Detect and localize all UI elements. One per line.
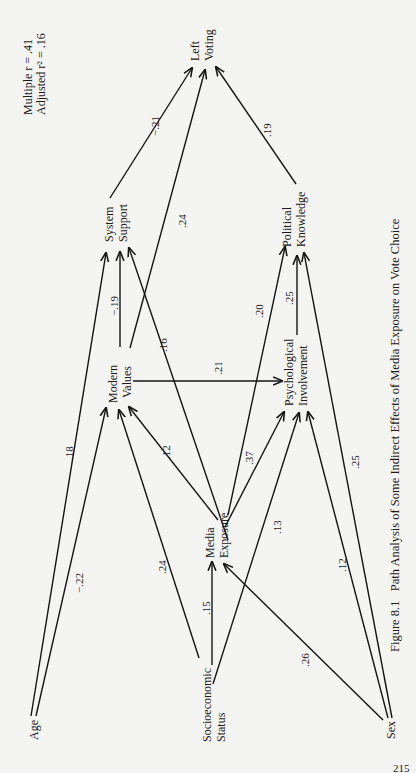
edges: [31, 67, 392, 720]
svg-text:Status: Status: [214, 712, 228, 742]
coef-sex-psych-involvement: .12: [336, 558, 348, 572]
svg-text:Support: Support: [116, 203, 130, 242]
coef-age-modern-values: −.22: [73, 573, 85, 593]
edge-ses-modern-values: [119, 410, 199, 658]
edge-political-knowledge-left-voting: [216, 67, 296, 184]
svg-text:Sex: Sex: [384, 721, 398, 739]
svg-text:Values: Values: [120, 366, 134, 398]
coef-ses-psych-involvement: .13: [271, 520, 283, 534]
svg-text:Media: Media: [203, 527, 217, 558]
node-political-knowledge: Political Knowledge: [280, 192, 308, 247]
node-media-exposure: Media Exposure: [203, 513, 231, 558]
coef-ses-modern-values: .24: [156, 560, 168, 574]
coef-sex-political-knowledge: .25: [349, 455, 361, 469]
node-psychological-involvement: Psychological Involvement: [282, 338, 310, 406]
coef-political-knowledge-left-voting: .19: [261, 123, 273, 137]
svg-text:Age: Age: [27, 720, 41, 740]
edge-age-system-support: [31, 253, 106, 716]
edge-sex-psych-involvement: [308, 412, 388, 718]
coef-age-system-support: .18: [63, 446, 75, 460]
coef-modern-values-psych-involvement: .21: [212, 361, 224, 375]
coef-ses-media-exposure: .15: [200, 601, 212, 615]
node-modern-values: Modern Values: [106, 365, 134, 403]
fit-statistics: Multiple r = .41 Adjusted r² = .16: [21, 33, 48, 115]
edge-media-exposure-modern-values: [129, 407, 218, 520]
svg-text:Psychological: Psychological: [282, 338, 296, 406]
path-diagram: Multiple r = .41 Adjusted r² = .16: [0, 0, 416, 773]
node-system-support: System Support: [102, 203, 130, 242]
coef-media-exposure-system-support: .16: [157, 338, 169, 352]
node-age: Age: [27, 720, 41, 740]
node-sex: Sex: [384, 721, 398, 739]
svg-text:Socioeconomic: Socioeconomic: [200, 668, 214, 742]
edge-modern-values-left-voting: [130, 70, 205, 348]
edge-sex-political-knowledge: [304, 253, 392, 718]
edge-sex-media-exposure: [224, 564, 383, 720]
page-number: 215: [393, 762, 410, 773]
svg-text:Left: Left: [188, 40, 202, 61]
coef-system-support-left-voting: −.21: [149, 116, 161, 136]
coef-media-exposure-political-knowledge: .20: [253, 304, 265, 318]
figure-caption: Figure 8.1 Path Analysis of Some Indirec…: [388, 218, 402, 652]
svg-text:System: System: [102, 206, 116, 242]
node-left-voting: Left Voting: [188, 29, 216, 61]
coef-media-exposure-psych-involvement: .37: [243, 451, 255, 465]
svg-text:Modern: Modern: [106, 365, 120, 403]
coef-sex-media-exposure: .26: [299, 653, 311, 667]
edge-media-exposure-system-support: [129, 248, 228, 540]
coef-psych-involvement-political-knowledge: .25: [283, 291, 295, 305]
svg-text:Exposure: Exposure: [217, 513, 231, 558]
adjusted-r2: Adjusted r² = .16: [34, 33, 48, 115]
svg-text:Knowledge: Knowledge: [294, 192, 308, 247]
coef-modern-values-left-voting: .24: [176, 214, 188, 228]
svg-text:Involvement: Involvement: [296, 345, 310, 406]
svg-text:Political: Political: [280, 206, 294, 247]
multiple-r: Multiple r = .41: [21, 39, 35, 115]
svg-text:Voting: Voting: [202, 29, 216, 61]
coef-media-exposure-modern-values: .12: [160, 445, 172, 459]
coef-modern-values-system-support: −.19: [108, 296, 120, 316]
edge-media-exposure-psych-involvement: [225, 412, 284, 527]
